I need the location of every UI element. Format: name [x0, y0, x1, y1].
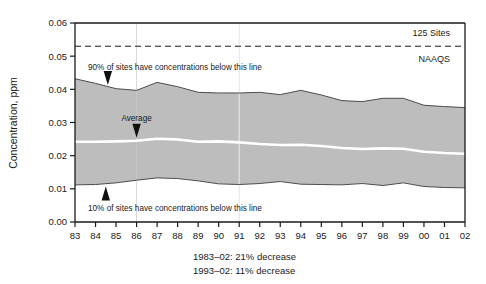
- y-axis-tick-label: 0.04: [49, 84, 68, 95]
- naaqs-label: NAAQS: [418, 54, 450, 64]
- y-axis-tick-label: 0.05: [49, 51, 68, 62]
- upper-percentile-annotation: 90% of sites have concentrations below t…: [88, 63, 262, 72]
- y-axis-tick-label: 0.02: [49, 150, 68, 161]
- x-axis-tick-label: 88: [172, 230, 183, 241]
- caption-line-1: 1983–02: 21% decrease: [193, 251, 296, 262]
- x-axis-tick-label: 94: [296, 230, 307, 241]
- y-axis-tick-label: 0.01: [49, 183, 68, 194]
- x-axis-tick-label: 99: [398, 230, 409, 241]
- y-axis-tick-label: 0.06: [49, 17, 68, 28]
- x-axis-tick-label: 96: [337, 230, 348, 241]
- y-axis-title: Concentration, ppm: [7, 77, 19, 169]
- x-axis-tick-label: 90: [213, 230, 224, 241]
- x-axis-tick-label: 91: [234, 230, 245, 241]
- x-axis-tick-label: 00: [419, 230, 430, 241]
- x-axis-tick-label: 85: [111, 230, 122, 241]
- x-axis-tick-label: 97: [357, 230, 368, 241]
- y-axis-tick-label: 0.00: [49, 216, 68, 227]
- x-axis: 8384858687888990919293949596979899000102: [70, 222, 471, 241]
- x-axis-tick-label: 89: [193, 230, 204, 241]
- x-axis-tick-label: 83: [70, 230, 81, 241]
- x-axis-tick-label: 95: [316, 230, 327, 241]
- x-axis-tick-label: 93: [275, 230, 286, 241]
- y-axis: 0.000.010.020.030.040.050.06: [49, 17, 76, 227]
- lower-percentile-annotation: 10% of sites have concentrations below t…: [88, 204, 262, 213]
- x-axis-tick-label: 02: [460, 230, 471, 241]
- average-annotation: Average: [121, 114, 152, 123]
- x-axis-tick-label: 86: [131, 230, 142, 241]
- x-axis-tick-label: 84: [90, 230, 101, 241]
- x-axis-tick-label: 01: [439, 230, 450, 241]
- y-axis-tick-label: 0.03: [49, 117, 68, 128]
- x-axis-tick-label: 87: [152, 230, 163, 241]
- x-axis-tick-label: 98: [378, 230, 389, 241]
- caption-line-2: 1993–02: 11% decrease: [193, 265, 295, 276]
- x-axis-tick-label: 92: [254, 230, 265, 241]
- concentration-trend-chart: 0.000.010.020.030.040.050.06 83848586878…: [0, 0, 486, 284]
- sites-count-label: 125 Sites: [412, 28, 450, 38]
- trend-chart-figure: 0.000.010.020.030.040.050.06 83848586878…: [0, 0, 486, 284]
